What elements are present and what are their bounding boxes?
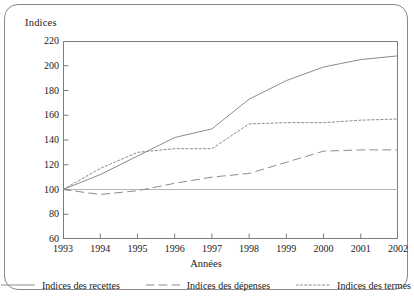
x-tick-label: 1993: [53, 243, 73, 255]
x-tick-label: 1998: [239, 243, 259, 255]
legend-label-termes: Indices des termes: [337, 280, 411, 291]
legend-line-swatch-termes: [296, 281, 330, 289]
legend-label-recettes: Indices des recettes: [42, 280, 120, 291]
chart-svg: [63, 41, 398, 239]
y-axis-title: Indices: [25, 17, 57, 28]
x-tick-label: 1994: [90, 243, 110, 255]
x-tick-label: 2000: [314, 243, 334, 255]
legend-line-swatch-recettes: [1, 281, 35, 289]
plot-border: [64, 42, 398, 240]
legend-line-swatch-depenses: [146, 281, 180, 289]
x-axis-title: Années: [5, 258, 407, 269]
x-tick-label: 2001: [351, 243, 371, 255]
legend-item-termes: Indices des termes: [296, 280, 411, 291]
x-tick-label: 1997: [202, 243, 222, 255]
legend-item-recettes: Indices des recettes: [1, 280, 120, 291]
series-line-depenses: [63, 150, 398, 195]
y-tick-label: 220: [33, 36, 59, 46]
series-line-termes: [63, 119, 398, 190]
x-tick-label: 1996: [165, 243, 185, 255]
x-tick-label: 1999: [276, 243, 296, 255]
chart-frame: Indices 2202001801601401201008060 199319…: [4, 4, 408, 290]
plot-area: [63, 41, 398, 239]
y-tick-label: 180: [33, 86, 59, 96]
chart-legend: Indices des recettesIndices des dépenses…: [19, 277, 393, 293]
x-tick-label: 1995: [127, 243, 147, 255]
y-tick-label: 200: [33, 61, 59, 71]
legend-item-depenses: Indices des dépenses: [146, 280, 270, 291]
y-tick-label: 120: [33, 160, 59, 170]
series-line-recettes: [63, 56, 398, 190]
y-tick-label: 80: [33, 209, 59, 219]
y-tick-label: 140: [33, 135, 59, 145]
y-tick-label: 100: [33, 185, 59, 195]
y-tick-label: 160: [33, 110, 59, 120]
legend-label-depenses: Indices des dépenses: [187, 280, 270, 291]
y-axis-tick-labels: 2202001801601401201008060: [31, 41, 59, 239]
x-tick-label: 2002: [388, 243, 408, 255]
x-axis-tick-labels: 1993199419951996199719981999200020012002: [63, 243, 398, 257]
